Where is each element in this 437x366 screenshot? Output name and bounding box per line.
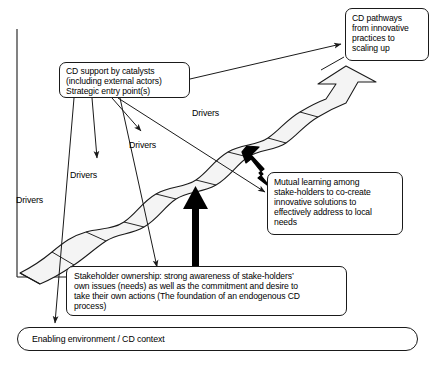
callout-mutual-learning-text: Mutual learning among stake-holders to c… xyxy=(274,177,397,227)
connector-cd-pathways-leader xyxy=(321,57,344,70)
callout-cd-support-text: CD support by catalysts (including exter… xyxy=(66,66,184,96)
driver-label-0: Drivers xyxy=(16,195,43,205)
callout-cd-pathways[interactable]: CD pathways from innovative practices to… xyxy=(345,8,429,61)
callout-cd-pathways-text: CD pathways from innovative practices to… xyxy=(352,13,423,53)
callout-mutual-learning[interactable]: Mutual learning among stake-holders to c… xyxy=(267,172,403,235)
driver-label-3: Drivers xyxy=(192,108,219,118)
driver-label-1: Drivers xyxy=(70,170,97,180)
diagram-canvas: CD pathways from innovative practices to… xyxy=(0,0,437,366)
callout-stakeholder-ownership-text: Stakeholder ownership: strong awareness … xyxy=(74,271,340,311)
connector-cd-support-to-driver-1 xyxy=(92,98,97,158)
connector-cd-support-to-cd-pathways xyxy=(190,44,341,79)
callout-enabling-environment[interactable]: Enabling environment / CD context xyxy=(17,327,418,351)
callout-stakeholder-ownership[interactable]: Stakeholder ownership: strong awareness … xyxy=(66,266,347,316)
callout-cd-support[interactable]: CD support by catalysts (including exter… xyxy=(59,62,190,98)
callout-enabling-environment-text: Enabling environment / CD context xyxy=(32,334,411,344)
driver-label-2: Drivers xyxy=(129,140,156,150)
bold-arrow-up xyxy=(183,186,208,268)
connector-cd-support-to-ribbon xyxy=(120,98,157,267)
